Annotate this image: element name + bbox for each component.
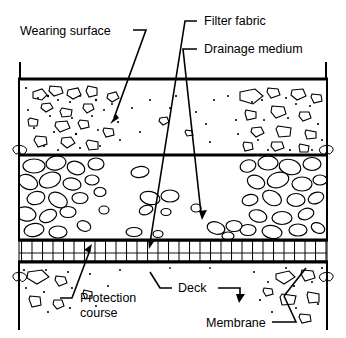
label-membrane: Membrane xyxy=(206,316,266,330)
cross-section-svg: Wearing surface Filter fabric Drainage m… xyxy=(0,0,346,338)
label-protection-course-line2: course xyxy=(80,306,118,320)
label-drainage-medium: Drainage medium xyxy=(204,42,303,56)
layer-protection-course xyxy=(19,241,327,261)
layer-deck xyxy=(19,263,327,329)
label-wearing-surface: Wearing surface xyxy=(20,24,111,38)
label-deck: Deck xyxy=(178,281,207,295)
label-protection-course-line1: Protection xyxy=(80,291,136,305)
layer-drainage-medium xyxy=(15,154,327,240)
diagram-figure: Wearing surface Filter fabric Drainage m… xyxy=(0,0,346,338)
label-filter-fabric: Filter fabric xyxy=(204,14,266,28)
layer-wearing-surface xyxy=(19,80,327,154)
